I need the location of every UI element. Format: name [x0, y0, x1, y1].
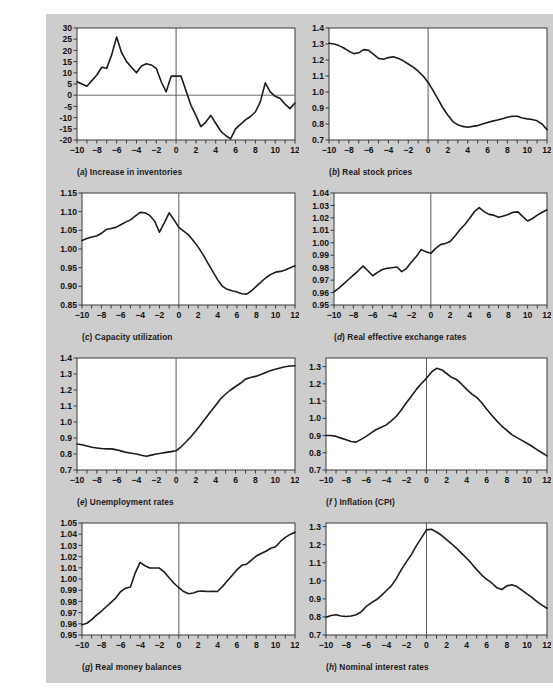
x-tick-label-g-2: −6 — [116, 640, 126, 650]
x-tick-label-e-10: 10 — [270, 475, 280, 485]
plot-frame-c — [82, 193, 295, 305]
plot-svg-g: 0.950.960.970.980.991.001.011.021.031.04… — [46, 509, 299, 657]
x-tick-label-d-5: 0 — [428, 310, 433, 320]
x-tick-label-c-10: 10 — [271, 310, 281, 320]
x-tick-label-c-6: 2 — [196, 310, 201, 320]
x-tick-label-e-3: −4 — [132, 475, 142, 485]
x-tick-label-d-2: −6 — [368, 310, 378, 320]
x-tick-label-h-4: −2 — [401, 640, 411, 650]
x-tick-label-c-2: −6 — [116, 310, 126, 320]
y-tick-label-b-6: 1.3 — [312, 39, 324, 49]
x-tick-label-b-9: 8 — [505, 145, 510, 155]
x-tick-label-c-4: −2 — [155, 310, 165, 320]
chart-panel-g: 0.950.960.970.980.991.001.011.021.031.04… — [46, 509, 299, 674]
y-tick-label-b-1: 0.8 — [312, 119, 324, 129]
y-tick-label-g-1: 0.96 — [60, 619, 77, 629]
x-tick-label-d-7: 4 — [467, 310, 472, 320]
y-tick-label-g-2: 0.97 — [60, 608, 77, 618]
x-tick-label-f-10: 10 — [522, 475, 532, 485]
x-tick-label-d-0: −10 — [327, 310, 342, 320]
chart-panel-c: 0.850.900.951.001.051.101.15−10−8−6−4−20… — [46, 179, 299, 344]
chart-panel-h: 0.70.80.91.01.11.21.3−10−8−6−4−202468101… — [298, 509, 551, 674]
plot-area-f: 0.70.80.91.01.11.21.3−10−8−6−4−202468101… — [298, 344, 551, 492]
x-tick-label-f-1: −8 — [341, 475, 351, 485]
y-tick-label-f-4: 1.1 — [309, 396, 321, 406]
plot-svg-b: 0.70.80.91.01.11.21.31.4−10−8−6−4−202468… — [298, 14, 551, 162]
x-tick-label-g-7: 4 — [215, 640, 220, 650]
x-tick-label-d-3: −4 — [387, 310, 397, 320]
plot-area-e: 0.70.80.91.01.11.21.31.4−10−8−6−4−202468… — [46, 344, 299, 492]
y-tick-label-h-4: 1.1 — [309, 558, 321, 568]
y-tick-label-e-3: 1.0 — [60, 417, 72, 427]
chart-panel-b: 0.70.80.91.01.11.21.31.4−10−8−6−4−202468… — [298, 14, 551, 179]
x-tick-label-f-9: 8 — [504, 475, 509, 485]
x-tick-label-g-9: 8 — [254, 640, 259, 650]
y-tick-label-c-3: 1.00 — [60, 244, 77, 254]
y-tick-label-d-3: 0.98 — [312, 263, 329, 273]
y-tick-label-c-6: 1.15 — [60, 188, 77, 198]
x-tick-label-h-9: 8 — [504, 640, 509, 650]
panel-caption-title-f: Inflation (CPI) — [337, 497, 395, 507]
plot-frame-d — [334, 193, 547, 305]
plot-area-a: -20-15-10-5051015202530−10−8−6−4−2024681… — [46, 14, 299, 162]
y-tick-label-a-5: 5 — [67, 79, 72, 89]
panel-grid: -20-15-10-5051015202530−10−8−6−4−2024681… — [46, 14, 553, 683]
plot-area-c: 0.850.900.951.001.051.101.15−10−8−6−4−20… — [46, 179, 299, 327]
y-tick-label-g-8: 1.03 — [60, 541, 77, 551]
plot-area-g: 0.950.960.970.980.991.001.011.021.031.04… — [46, 509, 299, 657]
x-tick-label-d-4: −2 — [407, 310, 417, 320]
x-tick-label-b-4: −2 — [403, 145, 413, 155]
y-tick-label-h-1: 0.8 — [309, 612, 321, 622]
y-tick-label-f-5: 1.2 — [309, 379, 321, 389]
y-tick-label-d-2: 0.97 — [312, 275, 329, 285]
y-tick-label-c-5: 1.10 — [60, 207, 77, 217]
y-tick-label-d-4: 0.99 — [312, 250, 329, 260]
x-tick-label-c-3: −4 — [135, 310, 145, 320]
y-tick-label-f-3: 1.0 — [309, 413, 321, 423]
y-tick-label-c-0: 0.85 — [60, 300, 77, 310]
panel-caption-f: (f ) Inflation (CPI) — [326, 497, 395, 507]
x-tick-label-b-10: 10 — [522, 145, 532, 155]
x-tick-label-e-0: −10 — [70, 475, 85, 485]
y-tick-label-e-4: 1.1 — [60, 401, 72, 411]
y-tick-label-a-3: -5 — [64, 102, 72, 112]
y-tick-label-e-1: 0.8 — [60, 449, 72, 459]
x-tick-label-b-1: −8 — [344, 145, 354, 155]
x-tick-label-a-9: 8 — [253, 145, 258, 155]
panel-caption-label-e: (e) — [77, 497, 87, 507]
panel-caption-label-a: (a) — [77, 167, 87, 177]
x-tick-label-a-4: −2 — [151, 145, 161, 155]
plot-svg-f: 0.70.80.91.01.11.21.3−10−8−6−4−202468101… — [298, 344, 551, 492]
panel-caption-title-g: Real money balances — [93, 662, 182, 672]
chart-panel-a: -20-15-10-5051015202530−10−8−6−4−2024681… — [46, 14, 299, 179]
y-tick-label-d-8: 1.03 — [312, 201, 329, 211]
y-tick-label-b-3: 1.0 — [312, 87, 324, 97]
y-tick-label-e-7: 1.4 — [60, 353, 72, 363]
chart-panel-f: 0.70.80.91.01.11.21.3−10−8−6−4−202468101… — [298, 344, 551, 509]
x-tick-label-f-5: 0 — [424, 475, 429, 485]
y-tick-label-a-9: 25 — [62, 34, 72, 44]
plot-svg-h: 0.70.80.91.01.11.21.3−10−8−6−4−202468101… — [298, 509, 551, 657]
y-tick-label-a-2: -10 — [60, 113, 73, 123]
x-tick-label-h-0: −10 — [319, 640, 334, 650]
panel-caption-title-a: Increase in inventories — [87, 167, 182, 177]
x-tick-label-a-5: 0 — [174, 145, 179, 155]
panel-caption-h: (h) Nominal interest rates — [326, 662, 429, 672]
x-tick-label-d-10: 10 — [523, 310, 533, 320]
y-tick-label-b-4: 1.1 — [312, 71, 324, 81]
panel-caption-label-g: (g) — [82, 662, 93, 672]
x-tick-label-a-1: −8 — [92, 145, 102, 155]
x-tick-label-d-8: 6 — [487, 310, 492, 320]
x-tick-label-d-9: 8 — [506, 310, 511, 320]
y-tick-label-h-6: 1.3 — [309, 522, 321, 532]
y-tick-label-d-1: 0.96 — [312, 288, 329, 298]
y-tick-label-f-6: 1.3 — [309, 362, 321, 372]
x-tick-label-h-10: 10 — [522, 640, 532, 650]
plot-svg-c: 0.850.900.951.001.051.101.15−10−8−6−4−20… — [46, 179, 299, 327]
figure-sheet: -20-15-10-5051015202530−10−8−6−4−2024681… — [46, 14, 553, 683]
y-tick-label-d-7: 1.02 — [312, 213, 329, 223]
y-tick-label-c-1: 0.90 — [60, 281, 77, 291]
panel-caption-e: (e) Unemployment rates — [77, 497, 174, 507]
y-tick-label-a-4: 0 — [67, 90, 72, 100]
x-tick-label-g-10: 10 — [271, 640, 281, 650]
